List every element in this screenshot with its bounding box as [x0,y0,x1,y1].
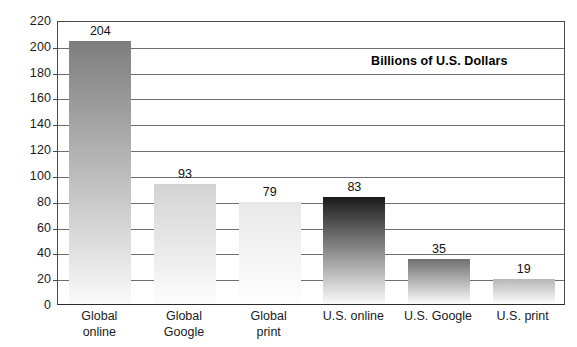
y-tick-label: 80 [5,196,51,208]
y-tick-mark [53,203,58,204]
y-tick-label: 120 [5,144,51,156]
bar-rect [408,259,470,304]
bar: 93 [154,20,216,304]
bar-chart: 220200180160140120100806040200 204937983… [0,0,577,347]
x-category-label: Global Google [142,308,227,340]
y-tick-mark [53,177,58,178]
y-tick-mark [53,99,58,100]
gridline [58,48,564,49]
bar-rect [493,279,555,304]
y-tick-label: 60 [5,222,51,234]
gridline [58,151,564,152]
bar-rect [239,202,301,304]
y-tick-label: 200 [5,41,51,53]
y-axis: 220200180160140120100806040200 [0,0,51,347]
y-tick-label: 0 [5,299,51,311]
y-tick-label: 20 [5,273,51,285]
gridline [58,74,564,75]
gridline [58,203,564,204]
x-category-label: U.S. online [311,308,396,324]
gridline [58,99,564,100]
bar-value-label: 83 [347,181,361,194]
y-tick-mark [53,151,58,152]
y-tick-label: 180 [5,67,51,79]
y-tick-mark [53,48,58,49]
bar-rect [154,184,216,304]
y-tick-mark [53,74,58,75]
bar-value-label: 35 [432,243,446,256]
y-tick-label: 140 [5,118,51,130]
bar-rect [69,41,131,304]
y-tick-label: 100 [5,170,51,182]
gridline [58,254,564,255]
bar-value-label: 19 [517,263,531,276]
y-tick-label: 160 [5,92,51,104]
gridline [58,125,564,126]
x-axis: Global onlineGlobal GoogleGlobal printU.… [57,308,565,347]
bar: 79 [239,20,301,304]
y-tick-mark [53,280,58,281]
gridline [58,280,564,281]
y-tick-mark [53,229,58,230]
x-category-label: U.S. print [480,308,565,324]
gridline [58,229,564,230]
bar-value-label: 79 [263,186,277,199]
x-category-label: Global online [57,308,142,340]
y-tick-label: 220 [5,15,51,27]
bar-rect [323,197,385,304]
chart-annotation: Billions of U.S. Dollars [371,54,507,68]
x-category-label: U.S. Google [396,308,481,324]
bar-value-label: 93 [178,168,192,181]
gridline [58,177,564,178]
x-category-label: Global print [226,308,311,340]
bar-value-label: 204 [90,25,111,38]
y-tick-mark [53,254,58,255]
y-tick-label: 40 [5,247,51,259]
bar: 204 [69,20,131,304]
y-tick-mark [53,125,58,126]
